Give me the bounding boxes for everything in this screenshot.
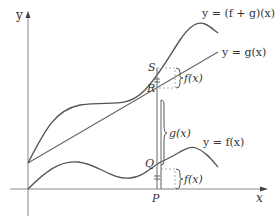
y-axis-arrow-icon xyxy=(26,11,31,18)
label-f: y = f(x) xyxy=(202,136,244,149)
point-Q-label: Q xyxy=(145,157,154,170)
brace-upper-f xyxy=(176,68,183,88)
brace-label-g: g(x) xyxy=(169,127,191,140)
x-axis-label: x xyxy=(256,191,263,205)
point-R-label: R xyxy=(146,82,155,95)
brace-label-lower-f: f(x) xyxy=(183,173,203,186)
axes xyxy=(10,11,268,216)
sum-of-functions-diagram: y x y = (f + g)(x) y = g(x) y = f(x) S R… xyxy=(0,0,279,220)
brace-g xyxy=(161,100,167,165)
point-S-label: S xyxy=(148,61,156,74)
label-g: y = g(x) xyxy=(221,46,266,59)
dashed-box-lower-f xyxy=(161,169,175,189)
brace-label-upper-f: f(x) xyxy=(183,72,203,85)
point-P-label: P xyxy=(151,192,160,205)
curve-g xyxy=(28,52,218,163)
y-axis-label: y xyxy=(15,8,23,22)
brace-lower-f xyxy=(176,169,183,189)
label-f-plus-g: y = (f + g)(x) xyxy=(201,7,275,20)
curve-f-plus-g xyxy=(28,23,218,163)
